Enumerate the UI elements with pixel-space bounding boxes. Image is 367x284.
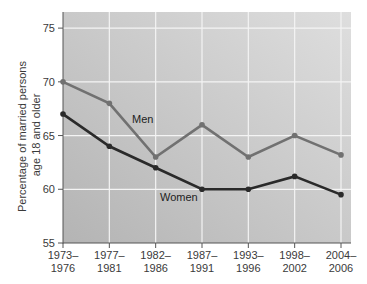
series-label-women: Women	[160, 191, 198, 203]
marriage-rate-line-chart: 5560657075 1973–19761977–19811982–198619…	[0, 0, 367, 284]
x-tick-label: 2004–2006	[326, 249, 357, 274]
data-point	[246, 186, 252, 192]
y-axis-ticks: 5560657075	[43, 22, 63, 249]
x-tick-label: 1998–2002	[279, 249, 310, 274]
data-point	[60, 111, 66, 117]
y-tick-label: 60	[43, 183, 55, 195]
x-tick-label: 1993–1996	[233, 249, 264, 274]
y-tick-label: 65	[43, 130, 55, 142]
series-label-men: Men	[132, 113, 153, 125]
data-point	[107, 144, 113, 150]
x-tick-label: 1987–1991	[187, 249, 218, 274]
data-point	[246, 154, 252, 160]
x-tick-label: 1977–1981	[94, 249, 125, 274]
data-point	[153, 165, 159, 171]
data-point	[199, 186, 205, 192]
data-point	[338, 192, 344, 198]
y-tick-label: 70	[43, 76, 55, 88]
data-point	[60, 79, 66, 85]
y-tick-label: 55	[43, 237, 55, 249]
data-point	[292, 174, 298, 180]
x-axis-ticks: 1973–19761977–19811982–19861987–19911993…	[48, 243, 357, 274]
y-tick-label: 75	[43, 22, 55, 34]
data-point	[292, 133, 298, 139]
data-point	[338, 152, 344, 158]
data-point	[199, 122, 205, 128]
x-tick-label: 1982–1986	[140, 249, 171, 274]
y-axis-title: Percentage of married persons age 18 and…	[16, 58, 42, 212]
data-point	[153, 154, 159, 160]
data-point	[107, 101, 113, 107]
x-tick-label: 1973–1976	[48, 249, 79, 274]
